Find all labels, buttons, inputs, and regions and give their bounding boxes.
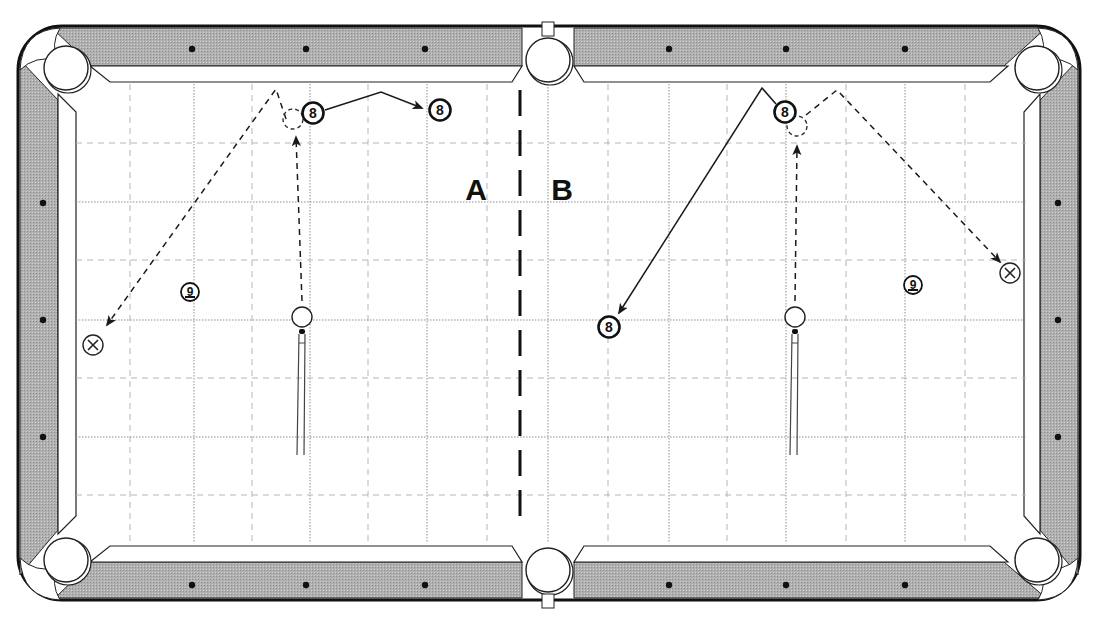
diamond-icon bbox=[666, 582, 672, 588]
ball-number: 9 bbox=[910, 278, 917, 292]
cue-ball-icon bbox=[292, 307, 312, 327]
rail-top-right bbox=[574, 28, 1046, 66]
pocket-top-left bbox=[44, 46, 91, 93]
ball-number: 8 bbox=[605, 319, 613, 335]
rail-bottom-left bbox=[55, 562, 522, 598]
ball-A-x bbox=[83, 335, 103, 355]
diamond-icon bbox=[189, 582, 195, 588]
diamond-icon bbox=[422, 582, 428, 588]
cushion-bottom-left bbox=[90, 546, 522, 562]
diamond-icon bbox=[303, 582, 309, 588]
rail-top-left bbox=[52, 28, 522, 66]
ball-B-9: 9 bbox=[904, 276, 922, 294]
diamond-icon bbox=[40, 434, 46, 440]
cue-ball-icon bbox=[785, 307, 805, 327]
pocket-top-right bbox=[1015, 46, 1062, 93]
ball-A-8-end: 8 bbox=[430, 100, 451, 121]
ball-B-x bbox=[1000, 263, 1020, 283]
pocket-bottom-left bbox=[44, 538, 91, 585]
diamond-icon bbox=[783, 582, 789, 588]
rail-left bbox=[20, 60, 58, 575]
cushion-left bbox=[58, 94, 76, 534]
cushion-right bbox=[1024, 94, 1040, 534]
diamond-icon bbox=[303, 46, 309, 52]
cushion-top-left bbox=[90, 66, 522, 82]
table-frame bbox=[18, 26, 1080, 600]
pocket-bottom-side bbox=[526, 548, 573, 595]
ball-B-cue bbox=[785, 307, 805, 327]
diamond-icon bbox=[1055, 317, 1061, 323]
diamond-icon bbox=[783, 46, 789, 52]
table-canvas: A B 889889 bbox=[0, 0, 1097, 618]
ball-A-9: 9 bbox=[181, 283, 199, 301]
pocket-bottom-right bbox=[1015, 538, 1062, 585]
pocket-top-side bbox=[526, 38, 573, 85]
ball-B-8-end: 8 bbox=[599, 317, 620, 338]
ball-number: 8 bbox=[309, 105, 317, 121]
ball-A-cue bbox=[292, 307, 312, 327]
region-label-a: A bbox=[465, 173, 487, 206]
ball-number: 9 bbox=[187, 285, 194, 299]
diamond-icon bbox=[902, 46, 908, 52]
ball-number: 8 bbox=[781, 104, 789, 120]
diamond-icon bbox=[666, 46, 672, 52]
pool-table-diagram: A B 889889 bbox=[0, 0, 1097, 618]
cushion-bottom-right bbox=[574, 546, 1008, 562]
diamond-icon bbox=[40, 200, 46, 206]
top-side-notch bbox=[542, 22, 554, 36]
rail-bottom-right bbox=[574, 562, 1046, 598]
ball-B-8-start: 8 bbox=[775, 102, 796, 123]
diamond-icon bbox=[189, 46, 195, 52]
diamond-icon bbox=[902, 582, 908, 588]
cushion-top-right bbox=[574, 66, 1008, 82]
diamond-icon bbox=[1055, 434, 1061, 440]
diamond-icon bbox=[40, 317, 46, 323]
diamond-icon bbox=[1055, 200, 1061, 206]
ball-A-8-start: 8 bbox=[303, 103, 324, 124]
bottom-side-notch bbox=[542, 594, 554, 608]
ball-number: 8 bbox=[436, 102, 444, 118]
region-label-b: B bbox=[551, 173, 573, 206]
diamond-icon bbox=[422, 46, 428, 52]
